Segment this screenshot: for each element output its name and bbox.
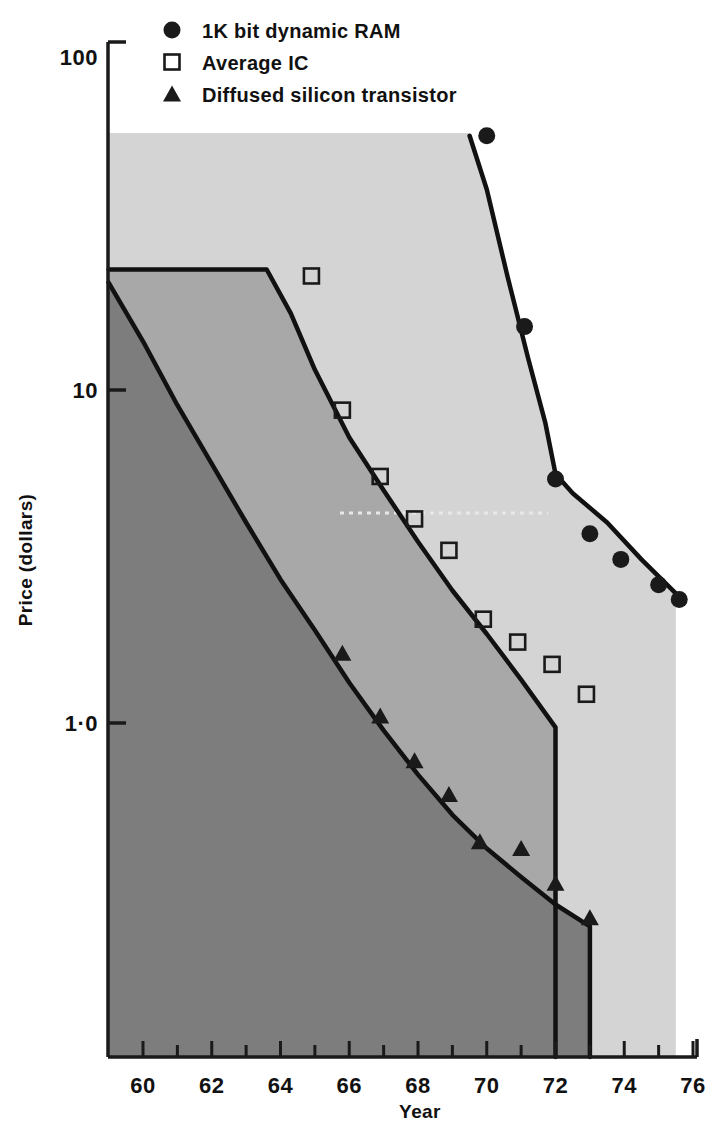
x-tick-label-66: 66 (337, 1073, 362, 1098)
x-tick-label-64: 64 (268, 1073, 294, 1098)
legend-label-0: 1K bit dynamic RAM (202, 20, 401, 42)
x-tick-label-group: 606264666870727476 (130, 1073, 705, 1098)
data-point-0-0 (478, 127, 495, 144)
x-tick-label-62: 62 (199, 1073, 224, 1098)
legend-item-2: Diffused silicon transistor (163, 84, 457, 106)
x-tick-label-76: 76 (680, 1073, 705, 1098)
y-axis-title: Price (dollars) (15, 494, 36, 627)
data-point-0-4 (612, 551, 629, 568)
price-vs-year-chart: 100101·0 606264666870727476 Price (dolla… (0, 0, 724, 1131)
legend-label-1: Average IC (202, 52, 309, 74)
legend-marker-filled-circle-icon (164, 22, 181, 39)
data-point-0-1 (516, 318, 533, 335)
y-tick-label-100: 100 (60, 45, 98, 70)
x-tick-label-72: 72 (543, 1073, 568, 1098)
data-point-0-3 (581, 525, 598, 542)
chart-canvas: 100101·0 606264666870727476 Price (dolla… (0, 0, 724, 1131)
y-tick-label-1·0: 1·0 (65, 711, 98, 736)
data-point-0-5 (650, 576, 667, 593)
x-axis-title: Year (399, 1101, 441, 1122)
legend-label-2: Diffused silicon transistor (202, 84, 457, 106)
x-tick-label-60: 60 (130, 1073, 155, 1098)
x-tick-label-74: 74 (612, 1073, 638, 1098)
x-tick-label-68: 68 (405, 1073, 430, 1098)
x-tick-label-70: 70 (474, 1073, 499, 1098)
y-tick-label-10: 10 (73, 378, 98, 403)
data-point-0-2 (547, 471, 564, 488)
data-point-0-6 (671, 591, 688, 608)
